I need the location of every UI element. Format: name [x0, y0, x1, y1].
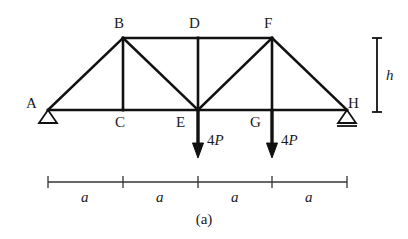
load-magnitude-G: 4 — [281, 132, 289, 148]
span-dimension-label-3: a — [231, 190, 239, 205]
support-roller-H — [338, 110, 356, 123]
load-label-E: 4P — [207, 133, 224, 148]
node-label-E: E — [176, 115, 185, 130]
load-arrow-head-G — [267, 143, 278, 158]
load-label-G: 4P — [281, 133, 298, 148]
truss-member-FH — [272, 38, 347, 110]
load-symbol-E: P — [215, 132, 224, 148]
node-label-D: D — [189, 16, 200, 31]
load-arrow-head-E — [193, 143, 204, 158]
figure-caption: (a) — [0, 212, 408, 227]
node-label-C: C — [115, 115, 125, 130]
node-label-A: A — [26, 96, 37, 111]
load-symbol-G: P — [289, 132, 298, 148]
span-dimension-label-1: a — [81, 190, 89, 205]
load-magnitude-E: 4 — [207, 132, 215, 148]
span-dimension-label-2: a — [156, 190, 164, 205]
truss-diagram-canvas — [0, 0, 408, 239]
span-dimension-label-4: a — [305, 190, 313, 205]
truss-member-BE — [123, 38, 198, 110]
truss-figure: ABCDEFGH 4P4P haaaa (a) — [0, 0, 408, 239]
support-pin-A — [39, 110, 57, 123]
node-label-F: F — [264, 16, 272, 31]
truss-member-AB — [48, 38, 123, 110]
node-label-H: H — [348, 96, 359, 111]
truss-members-group — [48, 38, 347, 110]
height-dimension-label: h — [386, 68, 394, 83]
node-label-B: B — [114, 16, 124, 31]
span-dimension-group — [48, 176, 347, 188]
truss-member-EF — [198, 38, 272, 110]
node-label-G: G — [250, 115, 261, 130]
load-arrows-group — [193, 110, 278, 158]
height-dimension-group — [372, 38, 382, 112]
